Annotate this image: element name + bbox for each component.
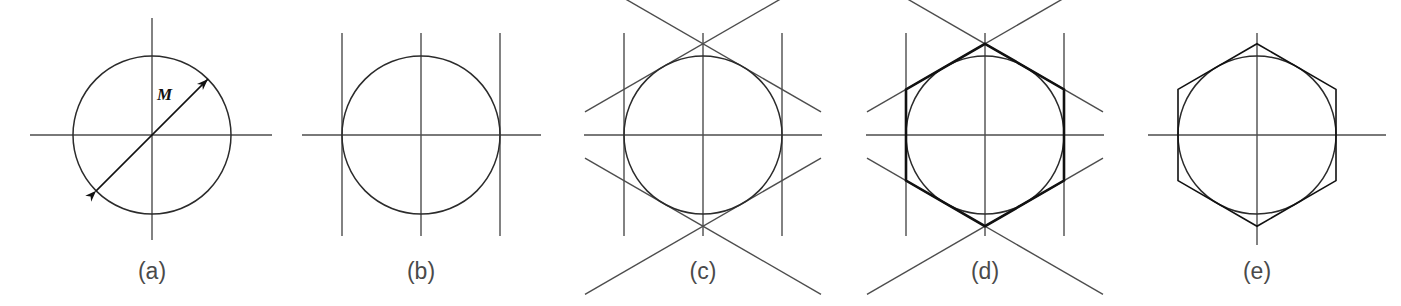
panel-caption-b: (b): [361, 258, 481, 285]
hexagon-construction-figure: (a)(b)(c)(d)(e) M: [0, 0, 1401, 306]
panel-a: [30, 18, 272, 240]
panel-caption-d: (d): [925, 258, 1045, 285]
panel-d: [866, 0, 1104, 294]
panel-caption-c: (c): [643, 258, 763, 285]
panel-e: [1148, 33, 1386, 245]
dimension-label-m: M: [157, 85, 172, 105]
panel-caption-e: (e): [1197, 258, 1317, 285]
panel-c: [584, 0, 822, 294]
panel-caption-a: (a): [92, 258, 212, 285]
panel-b: [302, 33, 541, 236]
